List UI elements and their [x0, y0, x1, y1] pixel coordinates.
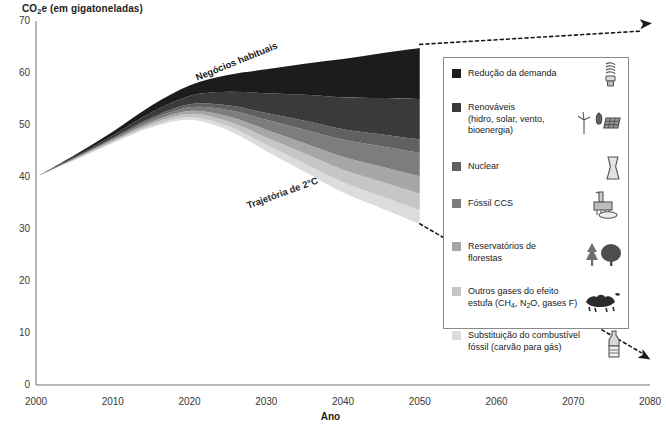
bau-projection-arrowhead [640, 18, 653, 29]
legend-item: Nuclear [452, 161, 622, 173]
legend-swatch [452, 199, 461, 208]
legend-swatch [452, 242, 461, 251]
legend-swatch [452, 103, 461, 112]
legend-label: Nuclear [468, 161, 622, 173]
legend-swatch [452, 69, 461, 78]
bau-projection [420, 31, 641, 44]
legend-item: Redução da demanda [452, 68, 622, 80]
legend-item: Substituição do combustívelfóssil (carvã… [452, 330, 622, 353]
legend-swatch [452, 287, 461, 296]
chart-legend: Redução da demandaRenováveis(hidro, sola… [443, 57, 629, 329]
legend-swatch [452, 331, 461, 340]
wind-turbine-solar-panel-icon [576, 98, 624, 146]
gas-bottle-icon [604, 326, 624, 362]
stacked-wedge-bands [36, 48, 420, 224]
livestock-icon [582, 282, 624, 318]
compact-fluorescent-bulb-icon [598, 64, 624, 86]
legend-label: Substituição do combustívelfóssil (carvã… [468, 330, 622, 353]
cooling-tower-icon [602, 157, 624, 179]
ccs-plant-icon [590, 194, 624, 216]
legend-swatch [452, 162, 461, 171]
trees-icon [582, 237, 624, 273]
